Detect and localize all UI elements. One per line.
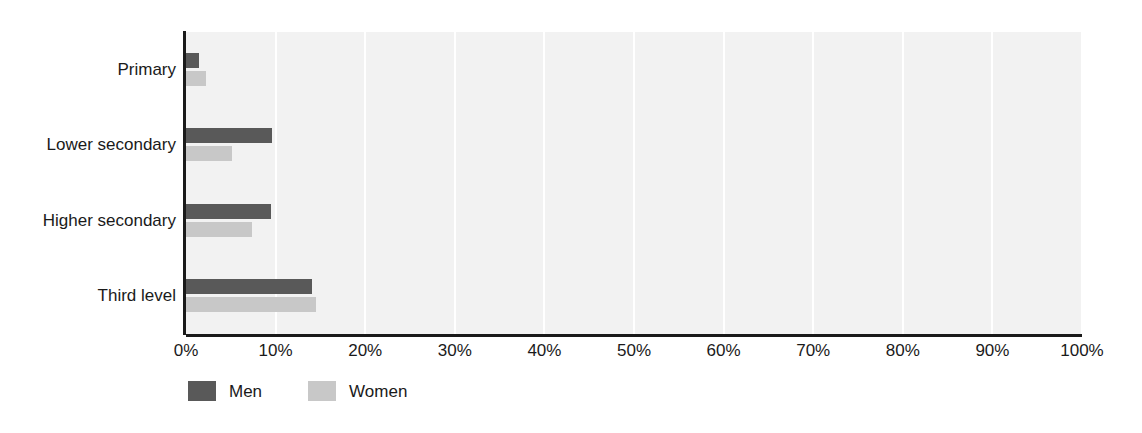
- legend-item-women[interactable]: Women: [308, 381, 407, 401]
- legend-label: Men: [229, 383, 262, 400]
- bar-group: [0, 53, 1142, 87]
- x-axis-tick-label: 40%: [504, 341, 584, 361]
- bar-chart: PrimaryLower secondaryHigher secondaryTh…: [0, 0, 1142, 433]
- x-axis-tick-label: 90%: [952, 341, 1032, 361]
- legend-swatch-women: [308, 381, 336, 401]
- x-axis-tick-label: 50%: [594, 341, 674, 361]
- chart-legend: MenWomen: [188, 381, 407, 401]
- x-axis-line: [186, 334, 1082, 337]
- x-axis-tick-label: 60%: [684, 341, 764, 361]
- bar-women-lower-secondary[interactable]: [186, 146, 232, 161]
- x-axis-tick-label: 80%: [863, 341, 943, 361]
- bar-men-higher-secondary[interactable]: [186, 204, 271, 219]
- bar-group: [0, 279, 1142, 313]
- top-clip-artifact: [0, 0, 1142, 6]
- bar-women-third-level[interactable]: [186, 297, 316, 312]
- x-axis-tick-label: 0%: [146, 341, 226, 361]
- legend-label: Women: [349, 383, 407, 400]
- x-axis-tick-label: 30%: [415, 341, 495, 361]
- legend-swatch-men: [188, 381, 216, 401]
- x-axis-tick-labels: 0%10%20%30%40%50%60%70%80%90%100%: [0, 341, 1142, 365]
- x-axis-tick-label: 100%: [1042, 341, 1122, 361]
- x-axis-tick-label: 70%: [773, 341, 853, 361]
- bar-group: [0, 128, 1142, 162]
- legend-item-men[interactable]: Men: [188, 381, 262, 401]
- bar-men-primary[interactable]: [186, 53, 199, 68]
- bar-women-higher-secondary[interactable]: [186, 222, 252, 237]
- bar-women-primary[interactable]: [186, 71, 206, 86]
- bar-men-third-level[interactable]: [186, 279, 312, 294]
- bar-group: [0, 204, 1142, 238]
- x-axis-tick-label: 20%: [325, 341, 405, 361]
- x-axis-tick-label: 10%: [236, 341, 316, 361]
- bar-men-lower-secondary[interactable]: [186, 128, 272, 143]
